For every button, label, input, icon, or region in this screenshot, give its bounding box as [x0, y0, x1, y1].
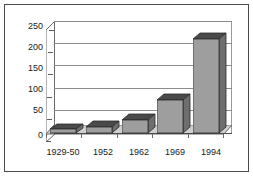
chart-frame: 250 200 150 100 50 0	[4, 4, 249, 172]
bar-1962[interactable]	[122, 113, 156, 136]
y-axis-tick-100	[47, 97, 52, 98]
plot-area	[46, 21, 232, 141]
gridline-250	[54, 21, 232, 22]
y-tick-label-150: 150	[28, 64, 43, 73]
y-axis-tick-200	[48, 52, 53, 53]
y-axis-tick-250	[49, 30, 54, 31]
y-tick-label-250: 250	[28, 22, 43, 31]
y-tick-label-50: 50	[33, 106, 43, 115]
y-axis-tick-50	[47, 119, 52, 120]
y-tick-label-0: 0	[38, 131, 43, 140]
y-tick-label-100: 100	[28, 85, 43, 94]
bar-1929-50[interactable]	[50, 123, 84, 135]
bar-1994[interactable]	[193, 32, 227, 136]
bar-1952[interactable]	[86, 120, 120, 136]
x-axis-labels: 1929-50 1952 1962 1969 1994	[5, 148, 249, 162]
x-tick-label-1994: 1994	[189, 148, 233, 157]
bar-1969[interactable]	[157, 93, 191, 136]
x-axis-tick-0	[46, 134, 47, 138]
y-axis-labels: 250 200 150 100 50 0	[7, 5, 43, 172]
y-tick-label-200: 200	[28, 43, 43, 52]
y-axis-tick-150	[48, 74, 53, 75]
